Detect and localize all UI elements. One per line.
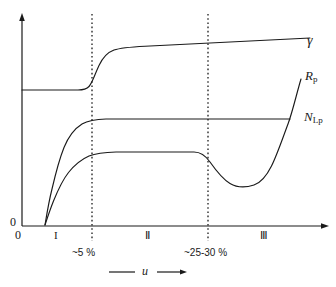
curve-label-rp-main: R xyxy=(305,68,313,83)
region-numeral-3: Ⅲ xyxy=(260,230,269,241)
curve-rp xyxy=(45,79,301,225)
plot-svg xyxy=(0,0,336,287)
x-axis-arrowhead xyxy=(321,223,329,229)
curve-label-rp: Rp xyxy=(305,69,317,84)
region-numeral-1: I xyxy=(54,230,58,241)
figure-container: γ Rp NLp 0 0 I Ⅱ Ⅲ ~5 % ~25-30 % u xyxy=(0,0,336,287)
curve-label-nlp: NLp xyxy=(304,110,323,125)
divider-label-1: ~5 % xyxy=(72,248,95,258)
u-axis-arrowhead xyxy=(180,270,187,275)
curve-nlp xyxy=(45,119,290,225)
curve-label-nlp-main: N xyxy=(304,109,313,124)
curve-label-rp-sub: p xyxy=(313,74,318,84)
x-axis-title: u xyxy=(142,265,148,277)
y-axis-arrowhead xyxy=(19,13,25,21)
y-axis-origin-label: 0 xyxy=(10,216,16,228)
curve-gamma xyxy=(22,38,310,90)
curve-label-nlp-sub: Lp xyxy=(313,115,323,125)
divider-label-2: ~25-30 % xyxy=(184,248,227,258)
curve-label-gamma: γ xyxy=(307,34,313,48)
x-axis-origin-label: 0 xyxy=(15,229,21,241)
region-numeral-2: Ⅱ xyxy=(145,230,151,241)
